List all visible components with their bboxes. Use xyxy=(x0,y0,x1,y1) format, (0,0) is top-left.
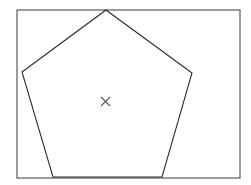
canvas-background xyxy=(0,0,251,185)
figure-canvas xyxy=(0,0,251,185)
